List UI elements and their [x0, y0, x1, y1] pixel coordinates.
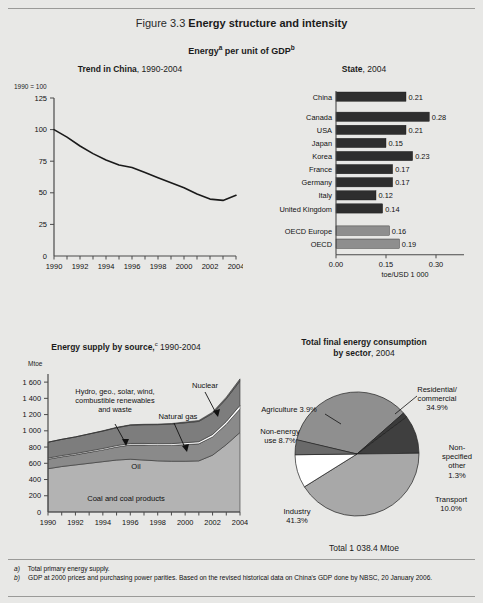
- state-bar: [336, 151, 413, 160]
- supply-annotation-renewables: and waste: [98, 405, 132, 414]
- supply-y-tick-label: 1 400: [23, 394, 42, 403]
- supply-annotation-nuclear: Nuclear: [192, 381, 219, 390]
- pie-label-industry: Industry: [283, 507, 310, 516]
- figure-title: Figure 3.3 Energy structure and intensit…: [0, 17, 483, 29]
- state-bar-category-label: China: [313, 93, 333, 102]
- footnote-rule: [8, 559, 475, 560]
- trend-line-chart: 1251007550250199019921994199619982000200…: [8, 90, 243, 280]
- consumption-total: Total 1 038.4 Mtoe: [250, 543, 478, 553]
- trend-x-tick-label: 1996: [124, 262, 141, 271]
- trend-y-tick-label: 100: [34, 125, 47, 134]
- supply-annotation-renewables: combustible renewables: [75, 396, 155, 405]
- supply-y-tick-label: 600: [29, 459, 41, 468]
- state-x-axis-label: toe/USD 1 000: [381, 270, 428, 279]
- pie-label-residential: commercial: [418, 394, 457, 403]
- consumption-title-rest: , 2004: [371, 348, 395, 358]
- state-bar: [336, 125, 406, 134]
- supply-annotation-natural-gas: Natural gas: [159, 412, 198, 421]
- trend-y-tick-label: 25: [39, 220, 47, 229]
- figure-title-text: Energy structure and intensity: [188, 17, 347, 29]
- pie-label-non-specified: Non-: [449, 443, 466, 452]
- state-bar: [336, 191, 376, 200]
- state-bar-value-label: 0.28: [432, 113, 446, 122]
- supply-y-tick-label: 0: [37, 508, 41, 517]
- state-bar: [336, 204, 383, 213]
- footnote-a: a) Total primary energy supply.: [14, 565, 474, 574]
- trend-y-tick-label: 125: [34, 94, 47, 103]
- state-bar-category-label: United Kingdom: [279, 205, 332, 214]
- supply-y-tick-label: 400: [29, 475, 41, 484]
- state-bar-value-label: 0.21: [409, 126, 423, 135]
- supply-annotation-coal: Coal and coal products: [87, 494, 165, 503]
- consumption-title-bold: by sector: [333, 348, 371, 358]
- subtitle-footnote-b: b: [291, 44, 295, 51]
- footnote-b: b) GDP at 2000 prices and purchasing pow…: [14, 574, 474, 583]
- trend-y-tick-label: 0: [43, 252, 47, 261]
- state-bar-value-label: 0.14: [385, 205, 399, 214]
- supply-area-chart: 1 6001 4001 2001 00080060040020001990199…: [8, 368, 248, 558]
- supply-y-tick-label: 1 600: [23, 378, 42, 387]
- figure-page: Figure 3.3 Energy structure and intensit…: [0, 0, 483, 603]
- supply-title-rest: 1990-2004: [158, 342, 201, 352]
- trend-title-rest: , 1990-2004: [137, 64, 182, 74]
- trend-y-tick-label: 75: [39, 157, 47, 166]
- state-bar: [336, 178, 393, 187]
- state-x-tick-label: 0.00: [329, 260, 343, 269]
- pie-label-non-energy: use 8.7%: [264, 436, 296, 445]
- state-x-tick-label: 0.15: [379, 260, 393, 269]
- bottom-rule: [8, 596, 475, 597]
- trend-x-tick-label: 2000: [176, 262, 193, 271]
- state-bar-value-label: 0.16: [392, 227, 406, 236]
- supply-x-tick-label: 1998: [149, 518, 165, 527]
- trend-y-tick-label: 50: [39, 188, 47, 197]
- footnote-a-marker: a): [14, 565, 20, 572]
- pie-label-non-specified: 1.3%: [448, 471, 466, 480]
- state-bar-category-label: Canada: [306, 113, 333, 122]
- pie-label-transport: Transport: [435, 495, 468, 504]
- supply-title-bold: Energy supply by source,: [51, 342, 154, 352]
- trend-x-tick-label: 2004: [228, 262, 243, 271]
- trend-x-tick-label: 2002: [202, 262, 219, 271]
- trend-panel-title: Trend in China, 1990-2004: [30, 64, 230, 74]
- trend-x-tick-label: 1998: [150, 262, 167, 271]
- state-bar-value-label: 0.12: [379, 191, 393, 200]
- pie-label-non-specified: specified: [442, 452, 472, 461]
- state-bar: [336, 165, 393, 174]
- figure-subtitle: Energya per unit of GDPb: [0, 44, 483, 56]
- top-rule: [8, 8, 475, 9]
- pie-leader-residential: [395, 396, 417, 414]
- footnote-b-text: GDP at 2000 prices and purchasing power …: [28, 574, 474, 583]
- trend-line-series: [54, 130, 236, 201]
- supply-annotation-oil: Oil: [131, 462, 141, 471]
- state-bar-value-label: 0.23: [415, 152, 429, 161]
- supply-y-tick-label: 200: [29, 491, 41, 500]
- trend-axis-note: 1990 = 100: [14, 83, 47, 90]
- subtitle-text-2: per unit of GDP: [222, 46, 291, 56]
- state-panel-title: State, 2004: [250, 64, 478, 74]
- pie-label-non-energy: Non-energy: [260, 427, 300, 436]
- supply-x-tick-label: 1994: [95, 518, 111, 527]
- state-bar-chart: China0.21Canada0.28USA0.21Japan0.15Korea…: [250, 84, 483, 284]
- state-bar-category-label: Korea: [312, 152, 333, 161]
- state-bar-category-label: OECD Europe: [285, 227, 332, 236]
- pie-label-residential: 34.9%: [426, 403, 448, 412]
- state-bar: [336, 92, 406, 101]
- state-bar: [336, 226, 389, 235]
- supply-x-tick-label: 2002: [204, 518, 220, 527]
- pie-label-agriculture: Agriculture 3.9%: [261, 405, 317, 414]
- state-x-tick-label: 0.30: [429, 260, 443, 269]
- supply-y-tick-label: 1 000: [23, 426, 42, 435]
- pie-label-industry: 41.3%: [286, 516, 308, 525]
- trend-x-tick-label: 1992: [72, 262, 89, 271]
- state-bar-category-label: Italy: [318, 191, 332, 200]
- state-bar-value-label: 0.17: [395, 178, 409, 187]
- state-title-rest: , 2004: [363, 64, 387, 74]
- supply-x-tick-label: 2000: [177, 518, 193, 527]
- supply-x-tick-label: 1990: [40, 518, 56, 527]
- figure-number: Figure 3.3: [136, 17, 186, 29]
- supply-panel-title: Energy supply by source,c 1990-2004: [12, 341, 240, 352]
- supply-unit-label: Mtoe: [28, 360, 42, 367]
- state-bar-value-label: 0.21: [409, 93, 423, 102]
- consumption-pie-chart: Residential/commercial34.9%Non-specified…: [245, 362, 483, 557]
- state-bar: [336, 112, 429, 121]
